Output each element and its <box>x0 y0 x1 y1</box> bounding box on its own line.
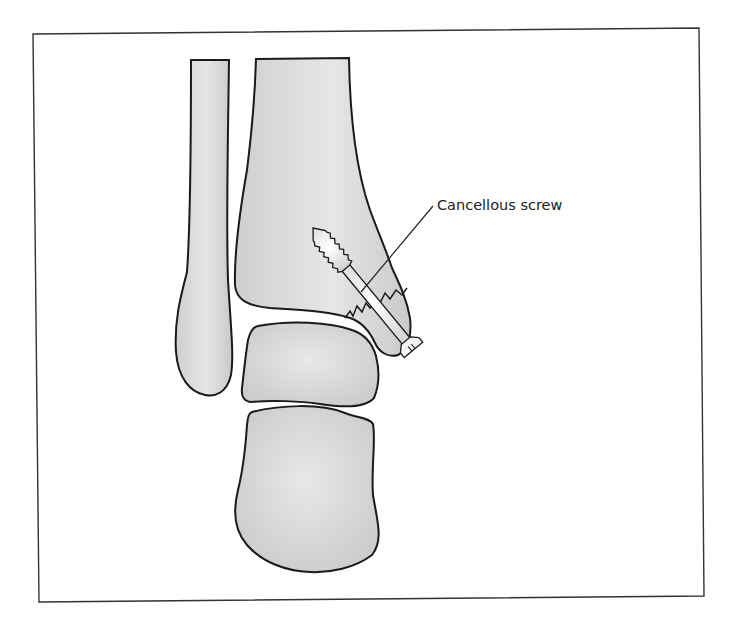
fibula-bone <box>176 60 233 395</box>
ankle-fixation-illustration: Cancellous screw <box>0 0 737 635</box>
talus-bone <box>242 323 379 407</box>
calcaneus-bone <box>235 406 378 572</box>
cancellous-screw-label: Cancellous screw <box>437 197 562 213</box>
